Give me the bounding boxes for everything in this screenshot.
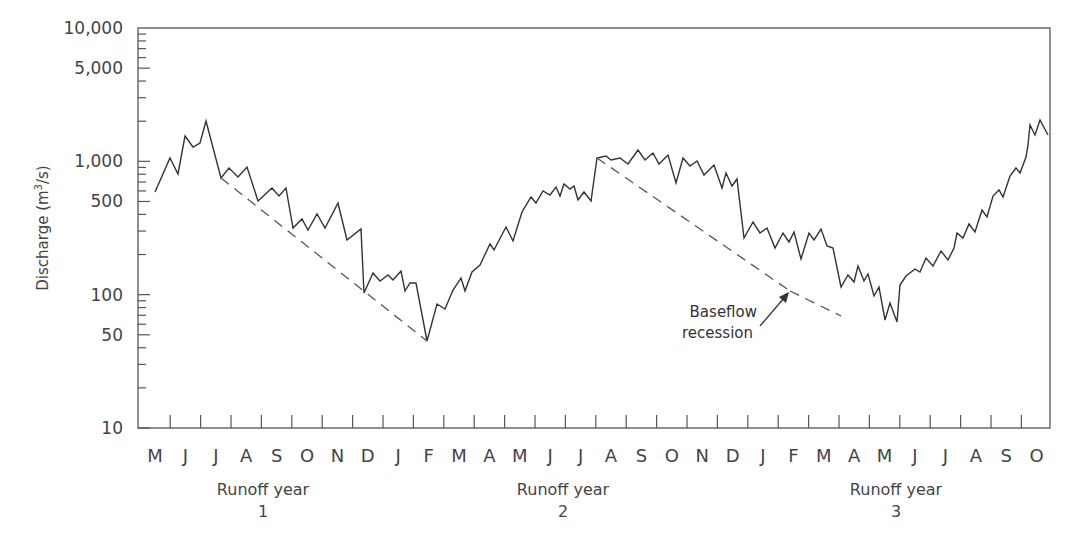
- x-month-label: O: [300, 445, 314, 466]
- x-month-label: N: [695, 445, 708, 466]
- x-month-label: S: [271, 445, 282, 466]
- y-axis: 10,0005,0001,0005001005010: [64, 18, 150, 438]
- x-month-label: F: [788, 445, 798, 466]
- x-month-label: J: [577, 445, 583, 466]
- runoff-year-label: Runoff year: [517, 480, 610, 499]
- x-month-label: J: [182, 445, 188, 466]
- x-month-label: A: [970, 445, 983, 466]
- x-month-label: A: [848, 445, 861, 466]
- runoff-year-number: 3: [891, 502, 901, 521]
- y-tick-label: 5,000: [74, 58, 123, 78]
- y-tick-label: 100: [91, 285, 123, 305]
- x-month-label: D: [726, 445, 740, 466]
- runoff-year-number: 2: [558, 502, 568, 521]
- y-tick-label: 10,000: [64, 18, 123, 38]
- x-month-label: J: [212, 445, 218, 466]
- annotation-arrow: [760, 298, 784, 326]
- x-month-label: M: [512, 445, 528, 466]
- baseflow-dashed-line: [221, 178, 427, 341]
- x-month-label: M: [816, 445, 832, 466]
- annotation-baseflow: Baseflow: [690, 303, 757, 321]
- x-month-label: J: [759, 445, 765, 466]
- x-month-label: M: [451, 445, 467, 466]
- runoff-year-label: Runoff year: [217, 480, 310, 499]
- discharge-line: [155, 120, 1048, 341]
- y-tick-label: 50: [101, 325, 123, 345]
- x-month-label: A: [240, 445, 253, 466]
- y-tick-label: 500: [91, 191, 123, 211]
- baseflow-dashed-line: [790, 291, 841, 316]
- x-month-label: J: [395, 445, 401, 466]
- x-month-label: M: [877, 445, 893, 466]
- x-month-label: S: [636, 445, 647, 466]
- runoff-year-number: 1: [258, 502, 268, 521]
- x-month-label: M: [147, 445, 163, 466]
- y-tick-label: 1,000: [74, 151, 123, 171]
- plot-frame: [138, 28, 1050, 428]
- x-month-label: S: [1000, 445, 1011, 466]
- x-month-label: N: [331, 445, 344, 466]
- hydrograph-chart: 10,0005,0001,0005001005010 MJJASONDJFMAM…: [0, 0, 1069, 538]
- x-month-label: J: [942, 445, 948, 466]
- annotation-recession: recession: [682, 324, 753, 342]
- x-month-label: F: [423, 445, 433, 466]
- x-month-label: O: [665, 445, 679, 466]
- baseflow-dashed-line: [597, 158, 790, 291]
- x-month-label: A: [605, 445, 618, 466]
- x-month-label: O: [1030, 445, 1044, 466]
- x-month-label: D: [361, 445, 375, 466]
- y-tick-label: 10: [101, 418, 123, 438]
- runoff-year-label: Runoff year: [850, 480, 943, 499]
- x-month-label: J: [911, 445, 917, 466]
- x-month-label: J: [547, 445, 553, 466]
- x-month-label: A: [483, 445, 496, 466]
- y-axis-title: Discharge (m3/s): [33, 165, 52, 290]
- x-axis: MJJASONDJFMAMJJASONDJFMAMJJASORunoff yea…: [147, 415, 1043, 521]
